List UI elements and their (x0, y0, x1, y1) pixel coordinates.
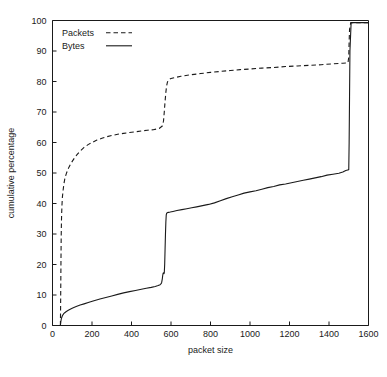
y-axis-ticks (53, 21, 57, 326)
x-axis-tick-labels: 02004006008001000120014001600 (50, 329, 379, 339)
y-axis-title: cumulative percentage (6, 128, 16, 219)
y-tick-label: 30 (36, 229, 46, 239)
x-tick-label: 0 (50, 329, 55, 339)
y-tick-label: 0 (41, 321, 46, 331)
plot-frame (53, 21, 369, 326)
y-tick-label: 50 (36, 168, 46, 178)
y-tick-label: 60 (36, 138, 46, 148)
x-tick-label: 200 (84, 329, 99, 339)
legend-label-bytes: Bytes (62, 41, 85, 51)
chart-container: 02004006008001000120014001600 0102030405… (0, 0, 387, 377)
x-tick-label: 1000 (240, 329, 260, 339)
axis-frame (53, 21, 369, 326)
y-tick-label: 40 (36, 199, 46, 209)
x-axis-ticks (53, 322, 369, 326)
y-tick-label: 20 (36, 260, 46, 270)
x-tick-label: 600 (163, 329, 178, 339)
chart-legend: PacketsBytes (62, 28, 132, 51)
data-series-group (60, 23, 368, 326)
cumulative-percentage-line-chart: 02004006008001000120014001600 0102030405… (0, 0, 387, 377)
legend-label-packets: Packets (62, 28, 95, 38)
x-tick-label: 1400 (319, 329, 339, 339)
y-axis-tick-labels: 0102030405060708090100 (31, 16, 46, 331)
x-tick-label: 1200 (279, 329, 299, 339)
series-line-bytes (60, 23, 368, 326)
x-tick-label: 400 (124, 329, 139, 339)
y-tick-label: 90 (36, 46, 46, 56)
y-tick-label: 80 (36, 77, 46, 87)
x-tick-label: 1600 (358, 329, 378, 339)
y-tick-label: 100 (31, 16, 46, 26)
x-tick-label: 800 (203, 329, 218, 339)
y-tick-label: 10 (36, 290, 46, 300)
x-axis-title: packet size (188, 345, 233, 355)
series-line-packets (60, 23, 368, 326)
y-tick-label: 70 (36, 107, 46, 117)
